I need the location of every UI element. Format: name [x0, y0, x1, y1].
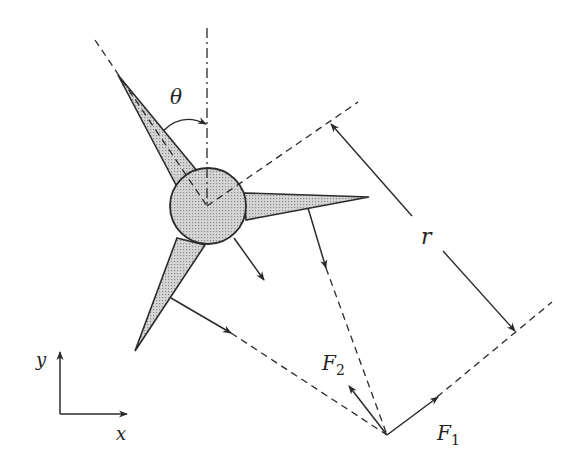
right-blade-force-arrow — [308, 208, 326, 268]
axis-x-label: x — [116, 423, 126, 444]
rotor-force-diagram: θ r F 2 F 1 y x — [0, 0, 577, 470]
blade-lower-left — [135, 238, 205, 351]
reference-line-upper — [207, 102, 358, 206]
dimension-r: r — [331, 124, 515, 331]
blade-axis-upper-left — [95, 40, 207, 206]
f2-label: F — [321, 351, 337, 375]
lower-blade-force-arrow — [171, 298, 231, 333]
axis-y-label: y — [35, 349, 47, 370]
force-arrow-F2 — [349, 386, 387, 435]
hub-force-arrow — [234, 238, 264, 280]
f1-label: F — [436, 421, 452, 445]
r-label: r — [421, 224, 433, 249]
f2-subscript: 2 — [336, 362, 345, 378]
coordinate-axes: y x — [35, 349, 127, 444]
angle-arc-theta — [163, 119, 206, 131]
lower-blade-dashed-extension — [231, 333, 387, 435]
f1-line-of-action — [437, 302, 552, 397]
f1-subscript: 1 — [451, 432, 460, 448]
theta-label: θ — [170, 85, 182, 109]
blade-right — [244, 193, 369, 220]
force-arrow-F1 — [387, 397, 438, 435]
